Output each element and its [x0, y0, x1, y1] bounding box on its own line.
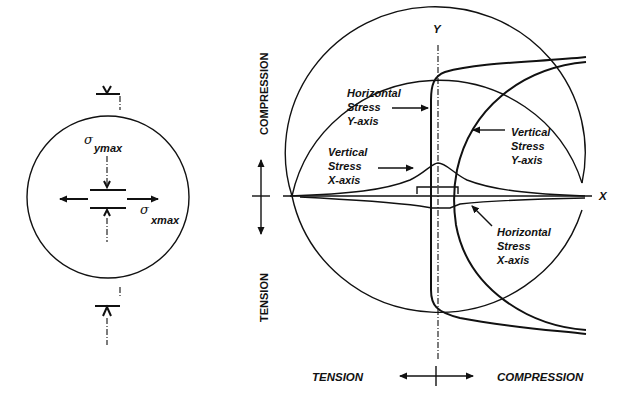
curve-horizontal-stress-x-axis: [300, 197, 585, 208]
y-axis-label: Y: [433, 23, 442, 35]
label-horizontal-stress-y-axis: Horizontal Stress Y-axis: [347, 87, 402, 127]
disc-specimen-outline: [27, 116, 189, 278]
label-vertical-stress-x-axis: Vertical Stress X-axis: [327, 146, 368, 186]
stress-distribution-diagram: σ ymax σ xmax Y X Horizontal Stress: [0, 0, 635, 401]
sigma-y-symbol: σ: [84, 132, 94, 147]
label-line: Horizontal: [497, 226, 552, 238]
label-horizontal-stress-x-axis: Horizontal Stress X-axis: [496, 226, 552, 266]
label-vertical-stress-y-axis: Vertical Stress Y-axis: [511, 126, 551, 166]
label-line: Y-axis: [511, 154, 543, 166]
bottom-load-arrow-icon: [103, 307, 111, 316]
top-load-arrow-icon: [103, 86, 111, 93]
label-line: Horizontal: [347, 87, 402, 99]
label-line: Stress: [497, 240, 531, 252]
label-line: Y-axis: [347, 115, 379, 127]
label-line: Vertical: [511, 126, 551, 138]
label-line: Stress: [347, 101, 381, 113]
sigma-x-symbol: σ: [140, 202, 150, 217]
stress-plot: Y X Horizontal Stress Y-axis Vertical St…: [252, 7, 608, 386]
label-line: Vertical: [328, 146, 368, 158]
label-line: Stress: [511, 140, 545, 152]
label-line: Stress: [328, 160, 362, 172]
vertical-compression-label: COMPRESSION: [258, 52, 270, 135]
horizontal-tension-label: TENSION: [312, 371, 364, 383]
inner-bottom-arrow-icon: [104, 210, 110, 216]
vertical-tension-label: TENSION: [258, 273, 270, 322]
sigma-y-subscript: ymax: [93, 142, 123, 154]
horizontal-compression-label: COMPRESSION: [497, 371, 584, 383]
disc-specimen-figure: σ ymax σ xmax: [27, 86, 189, 345]
label-line: X-axis: [496, 254, 529, 266]
sigma-x-subscript: xmax: [150, 214, 180, 226]
horizontal-stress-x-axis-arrow: [472, 206, 492, 226]
label-line: X-axis: [327, 174, 360, 186]
x-axis-label: X: [598, 190, 608, 202]
